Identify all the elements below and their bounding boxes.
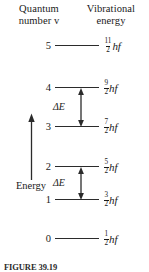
energy-unit-hf: hf	[109, 162, 117, 173]
energy-fraction: 32	[104, 192, 109, 208]
fraction-numerator: 11	[104, 38, 112, 46]
delta-e-double-arrow-icon	[73, 88, 89, 127]
energy-unit-hf: hf	[109, 234, 117, 245]
energy-level-line	[55, 238, 99, 239]
energy-unit-hf: hf	[112, 41, 120, 52]
level-energy-value: 72hf	[104, 120, 117, 134]
energy-fraction: 52	[104, 159, 109, 175]
fraction-denominator: 2	[104, 167, 109, 176]
fraction-numerator: 5	[104, 159, 109, 167]
energy-fraction: 112	[104, 38, 112, 54]
vibrational-energy-level-figure: Quantum number v Vibrational energy Ener…	[0, 0, 149, 272]
energy-unit-hf: hf	[109, 122, 117, 133]
energy-unit-hf: hf	[109, 195, 117, 206]
fraction-numerator: 3	[104, 192, 109, 200]
energy-unit-hf: hf	[109, 83, 117, 94]
level-quantum-number: 0	[38, 232, 51, 246]
figure-caption-text: FIGURE 39.19	[4, 263, 149, 272]
energy-transition: ΔE	[73, 167, 89, 200]
fraction-denominator: 2	[106, 46, 111, 55]
energy-level-row: 012hf	[0, 232, 149, 246]
energy-axis-label: Energy	[2, 180, 60, 192]
header-quantum-line1: Quantum	[19, 3, 59, 14]
fraction-numerator: 9	[104, 80, 109, 88]
header-vibrational-line2: energy	[97, 15, 126, 26]
header-quantum-line2: number v	[19, 15, 60, 26]
fraction-denominator: 2	[104, 239, 109, 248]
fraction-denominator: 2	[104, 88, 109, 97]
delta-e-label: ΔE	[53, 102, 65, 112]
delta-e-double-arrow-icon	[73, 167, 89, 200]
level-quantum-number: 3	[38, 120, 51, 134]
energy-level-row: 5112hf	[0, 39, 149, 53]
fraction-denominator: 2	[104, 200, 109, 209]
fraction-denominator: 2	[104, 127, 109, 136]
level-energy-value: 32hf	[104, 193, 117, 207]
level-quantum-number: 5	[38, 39, 51, 53]
level-quantum-number: 2	[38, 160, 51, 174]
figure-caption: FIGURE 39.19	[4, 263, 149, 272]
fraction-numerator: 7	[104, 119, 109, 127]
energy-fraction: 92	[104, 80, 109, 96]
header-quantum-number: Quantum number v	[8, 3, 70, 26]
level-energy-value: 112hf	[104, 39, 121, 53]
level-quantum-number: 1	[38, 193, 51, 207]
header-vibrational-energy: Vibrational energy	[78, 3, 144, 26]
energy-fraction: 12	[104, 231, 109, 247]
level-energy-value: 92hf	[104, 81, 117, 95]
level-quantum-number: 4	[38, 81, 51, 95]
energy-level-line	[55, 45, 99, 46]
level-energy-value: 52hf	[104, 160, 117, 174]
delta-e-label: ΔE	[53, 178, 65, 188]
fraction-numerator: 1	[104, 231, 109, 239]
energy-fraction: 72	[104, 119, 109, 135]
header-vibrational-line1: Vibrational	[87, 3, 135, 14]
energy-transition: ΔE	[73, 88, 89, 127]
level-energy-value: 12hf	[104, 232, 117, 246]
